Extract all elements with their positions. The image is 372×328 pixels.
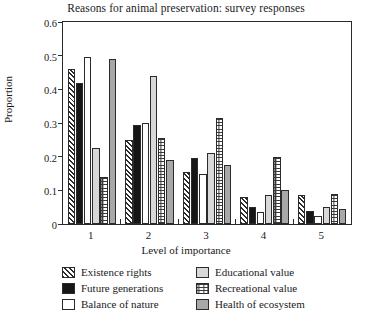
legend-swatch — [196, 283, 209, 294]
y-axis-tick-label: 0.6 — [44, 18, 57, 29]
x-axis-tick-mark — [293, 219, 294, 224]
chart-title: Reasons for animal preservation: survey … — [0, 2, 372, 14]
bar — [191, 158, 199, 224]
bar — [306, 211, 314, 224]
y-axis-tick-label: 0 — [52, 220, 57, 231]
legend-swatch — [62, 267, 75, 278]
bar — [158, 138, 166, 224]
bar — [257, 212, 265, 224]
bar — [331, 194, 339, 224]
bar — [84, 57, 92, 224]
y-axis-tick-mark — [58, 123, 63, 124]
bar — [125, 140, 133, 224]
bar — [249, 207, 257, 224]
bar — [142, 123, 150, 224]
bar — [109, 59, 117, 224]
bar — [166, 160, 174, 224]
y-axis-tick-mark — [58, 224, 63, 225]
x-axis-tick-mark — [235, 219, 236, 224]
x-axis-group-label: 5 — [318, 229, 324, 241]
x-axis-group-label: 3 — [203, 229, 209, 241]
bar — [183, 172, 191, 224]
legend-item: Health of ecosystem — [196, 296, 352, 312]
y-axis-tick-mark — [58, 55, 63, 56]
bar — [298, 195, 306, 224]
y-axis-tick-label: 0.3 — [44, 119, 57, 130]
legend-swatch — [62, 299, 75, 310]
bar — [314, 216, 322, 224]
legend-label: Recreational value — [215, 282, 297, 294]
x-axis-group-label: 1 — [88, 229, 94, 241]
legend-item: Balance of nature — [62, 296, 190, 312]
y-axis-label: Proportion — [2, 76, 14, 123]
legend-swatch — [62, 283, 75, 294]
y-axis-tick-mark — [58, 156, 63, 157]
bar — [224, 165, 232, 224]
y-axis-tick-label: 0.2 — [44, 153, 57, 164]
bar — [68, 69, 76, 224]
legend-label: Existence rights — [81, 266, 152, 278]
y-axis-tick-label: 0.4 — [44, 85, 57, 96]
bar — [273, 157, 281, 224]
x-axis-tick-mark — [178, 219, 179, 224]
chart-legend: Existence rightsEducational valueFuture … — [62, 264, 352, 312]
bar — [216, 118, 224, 224]
y-axis-tick-label: 0.5 — [44, 52, 57, 63]
bar — [76, 83, 84, 224]
legend-item: Existence rights — [62, 264, 190, 280]
chart-figure: Reasons for animal preservation: survey … — [0, 0, 372, 328]
y-axis-tick-mark — [58, 89, 63, 90]
y-axis-tick-label: 0.1 — [44, 186, 57, 197]
bar — [150, 76, 158, 224]
x-axis-tick-mark — [351, 219, 352, 224]
legend-item: Future generations — [62, 280, 190, 296]
plot-frame: 00.10.20.30.40.50.6 — [62, 21, 352, 225]
bar — [265, 195, 273, 224]
bar — [199, 174, 207, 225]
bar — [281, 190, 289, 224]
legend-label: Future generations — [81, 282, 163, 294]
legend-label: Educational value — [215, 266, 294, 278]
legend-item: Educational value — [196, 264, 352, 280]
bar — [240, 197, 248, 224]
bar — [207, 153, 215, 224]
legend-label: Health of ecosystem — [215, 298, 305, 310]
y-axis-tick-mark — [58, 190, 63, 191]
legend-swatch — [196, 299, 209, 310]
legend-label: Balance of nature — [81, 298, 159, 310]
plot-area: 00.10.20.30.40.50.6 — [63, 22, 351, 224]
legend-swatch — [196, 267, 209, 278]
y-axis-tick-mark — [58, 22, 63, 23]
x-axis-group-label: 2 — [146, 229, 152, 241]
x-axis-group-label: 4 — [261, 229, 267, 241]
bar — [323, 207, 331, 224]
legend-item: Recreational value — [196, 280, 352, 296]
x-axis-label: Level of importance — [0, 244, 372, 256]
bar — [92, 148, 100, 224]
x-axis-tick-mark — [120, 219, 121, 224]
bar — [133, 125, 141, 224]
bar — [339, 209, 347, 224]
bar — [100, 177, 108, 224]
